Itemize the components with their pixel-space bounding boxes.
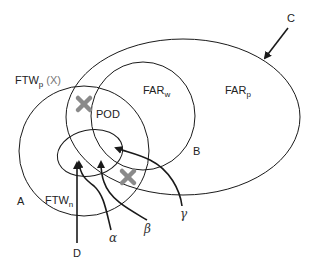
venn-diagram — [0, 0, 311, 268]
arrow-c — [265, 28, 288, 58]
label-beta: β — [144, 223, 151, 235]
cross-icon — [122, 171, 134, 183]
label-far-w: FARw — [143, 85, 170, 96]
label-c: C — [287, 13, 295, 24]
arrow-alpha — [79, 162, 111, 230]
label-far-p: FARp — [225, 85, 251, 96]
label-ftw-p-main: FTW — [15, 74, 39, 86]
label-ftw-n: FTWn — [45, 195, 73, 206]
label-far-p-sub: p — [246, 90, 250, 99]
label-ftw-p-sub: p — [39, 80, 43, 89]
label-far-w-main: FAR — [143, 84, 164, 96]
label-far-p-main: FAR — [225, 84, 246, 96]
label-d: D — [73, 248, 81, 259]
cross-icon — [78, 98, 90, 110]
label-b: B — [193, 146, 200, 157]
label-ftw-p: FTWp (X) — [15, 75, 61, 86]
label-ftw-n-main: FTW — [45, 194, 69, 206]
label-pod: POD — [96, 109, 120, 120]
label-ftw-n-sub: n — [69, 200, 73, 209]
label-alpha: α — [109, 232, 117, 244]
label-a: A — [17, 196, 24, 207]
ellipse-inner — [53, 124, 127, 183]
label-far-w-sub: w — [164, 90, 170, 99]
label-gamma: γ — [180, 208, 187, 220]
label-ftw-p-suffix: (X) — [46, 74, 61, 86]
